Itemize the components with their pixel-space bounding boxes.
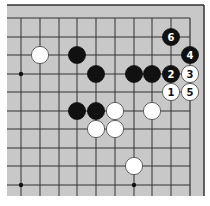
white-stone [106,120,123,137]
black-stone [143,65,160,82]
move-number-label: 2 [168,69,175,80]
move-number-label: 6 [168,32,175,43]
white-stone-move-1: 1 [162,83,179,100]
move-number-label: 1 [168,87,175,98]
white-stone [31,46,48,63]
black-stone [87,65,104,82]
star-point [19,72,23,76]
black-stone [87,102,104,119]
black-stone-move-4: 4 [181,46,198,63]
move-number-label: 3 [187,69,194,80]
black-stone-move-6: 6 [162,28,179,45]
black-stone [68,102,85,119]
white-stone [87,120,104,137]
white-stone [106,102,123,119]
white-stone [125,157,142,174]
star-point [19,183,23,187]
black-stone-move-2: 2 [162,65,179,82]
move-number-label: 5 [187,87,194,98]
white-stone-move-5: 5 [181,83,198,100]
white-stone-move-3: 3 [181,65,198,82]
black-stone [68,46,85,63]
white-stone [143,102,160,119]
black-stone [125,65,142,82]
move-number-label: 4 [187,50,194,61]
go-board-diagram: 123456 [0,0,210,206]
star-point [132,183,136,187]
